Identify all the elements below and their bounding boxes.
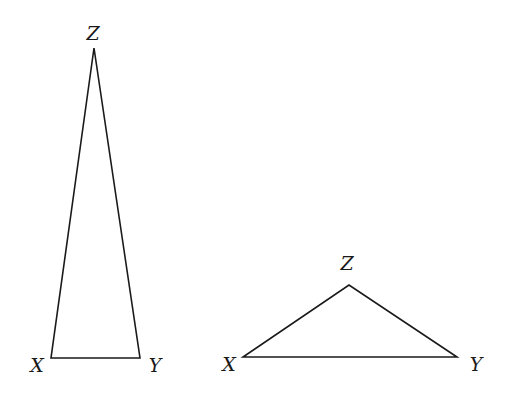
wide-triangle-label-y: Y <box>470 353 485 375</box>
tall-triangle: X Y Z <box>28 22 163 376</box>
tall-triangle-label-x: X <box>28 354 45 376</box>
tall-triangle-label-z: Z <box>85 22 100 44</box>
tall-triangle-shape <box>51 48 140 358</box>
tall-triangle-label-y: Y <box>149 354 164 376</box>
wide-triangle-shape <box>243 285 457 357</box>
wide-triangle-label-x: X <box>220 353 237 375</box>
wide-triangle: X Y Z <box>220 252 484 375</box>
triangles-diagram: X Y Z X Y Z <box>0 0 510 395</box>
wide-triangle-label-z: Z <box>339 252 354 274</box>
